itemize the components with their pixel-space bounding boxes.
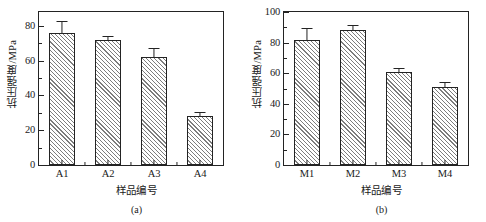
x-tick-label-M2: M2 [346, 169, 360, 180]
x-axis-title-a: 样品编号 [15, 186, 258, 197]
bar-M4 [432, 87, 458, 165]
x-tick-b-M2 [352, 160, 353, 165]
x-tick-label-A2: A2 [102, 169, 115, 180]
y-tick-label-b-60: 60 [270, 68, 280, 79]
bar-group [432, 12, 458, 165]
y-tick-a-20 [39, 130, 44, 131]
bar-group [187, 12, 213, 165]
y-tick-label-a-60: 60 [25, 55, 35, 66]
error-cap-A3 [149, 48, 160, 49]
x-minor-tick-a-0 [84, 162, 85, 165]
chart-panel-b: 抗压强度/MPa 020406080100M1M2M3M4 样品编号 (b) [243, 0, 486, 222]
x-minor-tick-b-2 [421, 162, 422, 165]
plot-area-a: 020406080A1A2A3A4 [38, 11, 224, 166]
bar-A2 [95, 40, 121, 165]
y-axis-title-a: 抗压强度/MPa [8, 40, 19, 108]
x-tick-label-A1: A1 [56, 169, 69, 180]
x-tick-a-A1 [61, 160, 62, 165]
bar-group [340, 12, 366, 165]
y-tick-b-20 [284, 134, 289, 135]
y-minor-tick-a-50 [39, 78, 42, 79]
y-minor-tick-a-70 [39, 43, 42, 44]
error-cap-M1 [302, 28, 313, 29]
x-tick-label-M4: M4 [438, 169, 452, 180]
error-cap-M4 [440, 82, 451, 83]
error-bar-M4 [444, 83, 445, 87]
bar-M1 [294, 40, 320, 165]
bar-M3 [386, 72, 412, 165]
y-tick-label-a-80: 80 [25, 21, 35, 32]
figure-root: 抗压强度/MPa 020406080A1A2A3A4 样品编号 (a) 抗压强度… [0, 0, 486, 222]
error-cap-M2 [348, 25, 359, 26]
bar-M2 [340, 30, 366, 165]
plot-area-b: 020406080100M1M2M3M4 [283, 11, 469, 166]
error-bar-M1 [306, 29, 307, 40]
y-tick-a-40 [39, 95, 44, 96]
x-minor-tick-a-1 [130, 162, 131, 165]
bars-layer-a [39, 12, 223, 165]
y-tick-a-0 [39, 165, 44, 166]
y-tick-b-100 [284, 12, 289, 13]
y-tick-label-a-0: 0 [30, 160, 35, 171]
error-cap-A1 [57, 21, 68, 22]
y-minor-tick-b-50 [284, 89, 287, 90]
bar-A4 [187, 116, 213, 165]
x-tick-b-M1 [306, 160, 307, 165]
x-tick-label-A3: A3 [148, 169, 161, 180]
error-cap-A2 [103, 36, 114, 37]
error-bar-M2 [352, 26, 353, 31]
x-tick-b-M4 [444, 160, 445, 165]
y-tick-label-b-20: 20 [270, 129, 280, 140]
y-tick-label-b-80: 80 [270, 37, 280, 48]
bar-A1 [49, 33, 75, 165]
panel-caption-b: (b) [260, 205, 486, 215]
bar-group [141, 12, 167, 165]
y-tick-b-40 [284, 104, 289, 105]
chart-panel-a: 抗压强度/MPa 020406080A1A2A3A4 样品编号 (a) [0, 0, 243, 222]
error-bar-M3 [398, 69, 399, 71]
error-bar-A2 [107, 37, 108, 40]
y-minor-tick-b-10 [284, 150, 287, 151]
y-minor-tick-b-70 [284, 58, 287, 59]
y-tick-label-b-100: 100 [265, 7, 280, 18]
y-tick-a-80 [39, 26, 44, 27]
y-minor-tick-b-30 [284, 119, 287, 120]
y-axis-title-b: 抗压强度/MPa [253, 40, 264, 108]
x-tick-b-M3 [398, 160, 399, 165]
y-tick-label-a-40: 40 [25, 90, 35, 101]
panel-caption-a: (a) [15, 205, 258, 215]
x-axis-title-b: 样品编号 [260, 186, 486, 197]
x-minor-tick-a-2 [176, 162, 177, 165]
x-tick-a-A2 [107, 160, 108, 165]
error-cap-A4 [195, 112, 206, 113]
bar-group [95, 12, 121, 165]
y-minor-tick-a-10 [39, 148, 42, 149]
x-tick-a-A3 [153, 160, 154, 165]
bar-A3 [141, 57, 167, 165]
y-tick-a-60 [39, 61, 44, 62]
error-cap-M3 [394, 68, 405, 69]
y-minor-tick-a-30 [39, 113, 42, 114]
x-minor-tick-b-1 [375, 162, 376, 165]
error-bar-A4 [199, 113, 200, 116]
y-minor-tick-b-90 [284, 27, 287, 28]
bar-group [49, 12, 75, 165]
x-tick-a-A4 [199, 160, 200, 165]
error-bar-A1 [61, 22, 62, 32]
y-tick-label-a-20: 20 [25, 125, 35, 136]
x-minor-tick-b-0 [329, 162, 330, 165]
y-tick-label-b-0: 0 [275, 160, 280, 171]
x-tick-label-M1: M1 [300, 169, 314, 180]
error-bar-A3 [153, 49, 154, 58]
bar-group [386, 12, 412, 165]
y-tick-b-80 [284, 43, 289, 44]
bars-layer-b [284, 12, 468, 165]
y-tick-b-60 [284, 73, 289, 74]
y-tick-label-b-40: 40 [270, 99, 280, 110]
x-tick-label-A4: A4 [194, 169, 207, 180]
bar-group [294, 12, 320, 165]
y-tick-b-0 [284, 165, 289, 166]
x-tick-label-M3: M3 [392, 169, 406, 180]
